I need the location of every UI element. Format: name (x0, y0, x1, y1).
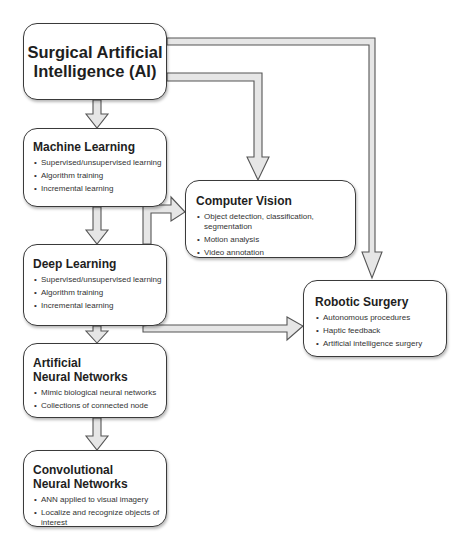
arrow-dl-to-ann (86, 326, 108, 343)
node-title-line: Convolutional (33, 463, 166, 477)
bullet-item: Object detection, classification, segmen… (196, 212, 346, 232)
node-bullet-list: Supervised/unsupervised learning Algorit… (33, 158, 166, 194)
bullet-item: Artificial intelligence surgery (315, 339, 446, 349)
bullet-item: Algorithm training (33, 171, 166, 181)
diagram-canvas: .arw { fill: #e6e6e6; stroke: #555; stro… (0, 0, 465, 544)
bullet-item: Autonomous procedures (315, 313, 446, 323)
node-bullet-list: ANN applied to visual imagery Localize a… (33, 495, 161, 528)
node-bullet-list: Autonomous procedures Haptic feedback Ar… (315, 313, 446, 349)
node-bullet-list: Supervised/unsupervised learning Algorit… (33, 275, 166, 311)
bullet-item: Video annotation (196, 248, 346, 258)
node-machine-learning: Machine Learning Supervised/unsupervised… (23, 128, 167, 207)
arrow-ml-to-deep-learning (86, 207, 108, 244)
arrow-ann-to-cnn (86, 418, 108, 450)
node-convolutional-neural-networks: Convolutional Neural Networks ANN applie… (23, 450, 167, 527)
node-deep-learning: Deep Learning Supervised/unsupervised le… (23, 244, 167, 326)
bullet-item: Algorithm training (33, 288, 166, 298)
node-title-line: Neural Networks (33, 370, 166, 384)
node-title: Deep Learning (33, 257, 166, 271)
node-bullet-list: Object detection, classification, segmen… (196, 212, 346, 258)
bullet-item: Motion analysis (196, 235, 346, 245)
arrow-ai-to-computer-vision (167, 73, 269, 180)
arrow-dl-to-robotic-surgery (143, 317, 303, 340)
node-title: Artificial Neural Networks (33, 356, 166, 384)
node-title: Convolutional Neural Networks (33, 463, 166, 491)
bullet-item: Mimic biological neural networks (33, 388, 166, 398)
bullet-item: Supervised/unsupervised learning (33, 275, 166, 285)
bullet-item: Haptic feedback (315, 326, 446, 336)
bullet-item: Localize and recognize objects of intere… (33, 508, 161, 528)
bullet-item: Incremental learning (33, 301, 166, 311)
bullet-item: ANN applied to visual imagery (33, 495, 161, 505)
node-title: Computer Vision (196, 194, 355, 208)
bullet-item: Supervised/unsupervised learning (33, 158, 166, 168)
node-title-line: Neural Networks (33, 477, 166, 491)
node-title: Robotic Surgery (315, 295, 446, 309)
node-artificial-neural-networks: Artificial Neural Networks Mimic biologi… (23, 343, 167, 418)
node-title: Surgical Artificial Intelligence (AI) (24, 43, 166, 81)
bullet-item: Incremental learning (33, 184, 166, 194)
node-title: Machine Learning (33, 140, 166, 154)
arrow-ai-to-machine-learning (86, 100, 108, 128)
node-surgical-ai: Surgical Artificial Intelligence (AI) (23, 23, 167, 100)
node-bullet-list: Mimic biological neural networks Collect… (33, 388, 166, 411)
node-title-line: Artificial (33, 356, 166, 370)
bullet-item: Collections of connected node (33, 401, 166, 411)
node-computer-vision: Computer Vision Object detection, classi… (185, 180, 356, 258)
node-robotic-surgery: Robotic Surgery Autonomous procedures Ha… (303, 280, 447, 357)
